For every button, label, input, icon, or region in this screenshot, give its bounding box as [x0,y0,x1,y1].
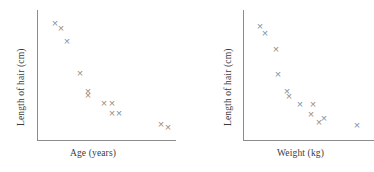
data-point-marker [63,37,72,46]
x-axis-label-weight: Weight (kg) [227,148,374,158]
chart-panel-age: Length of hair (cm) Age (years) [0,0,187,172]
data-point-marker [76,69,85,78]
data-point-marker [296,100,305,109]
plot-area-weight [187,0,374,172]
data-point-marker [115,109,124,118]
x-axis-label-age: Age (years) [10,148,176,158]
data-point-marker [272,45,281,54]
data-point-layer-age [0,0,187,172]
data-point-marker [164,123,173,132]
y-axis-label-age: Length of hair (cm) [16,48,26,126]
data-point-marker [261,29,270,38]
data-point-marker [320,114,329,123]
y-axis-label-weight: Length of hair (cm) [223,48,233,126]
chart-panel-weight: Length of hair (cm) Weight (kg) [187,0,374,172]
data-point-marker [274,70,283,79]
data-point-marker [353,121,362,130]
data-point-marker [84,91,93,100]
data-point-marker [285,92,294,101]
scatterplot-figure: Length of hair (cm) Age (years) Length o… [0,0,374,172]
data-point-layer-weight [187,0,374,172]
plot-area-age [0,0,187,172]
data-point-marker [57,24,66,33]
